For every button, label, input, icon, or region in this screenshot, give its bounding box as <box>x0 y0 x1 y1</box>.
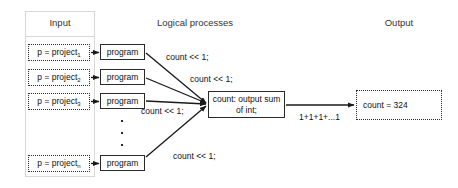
input-project-box-3[interactable]: p = project3 <box>28 93 90 110</box>
input-project-label-1: p = project <box>37 47 77 57</box>
aggregator-box[interactable]: count: output sum of int; <box>208 91 285 118</box>
input-project-box-n[interactable]: p = projectn <box>28 155 90 172</box>
aggregator-line-1: count: output sum <box>213 94 281 104</box>
column-header-logical-processes: Logical processes <box>140 17 250 29</box>
input-project-subscript-2: 2 <box>77 77 80 83</box>
input-project-label-3: p = project <box>37 96 77 106</box>
column-header-input: Input <box>25 17 95 29</box>
input-project-label-n: p = project <box>37 158 77 168</box>
program-box-3[interactable]: program <box>100 93 145 109</box>
output-count-box[interactable]: count = 324 <box>356 90 442 120</box>
input-project-box-1[interactable]: p = project1 <box>28 44 90 61</box>
program-box-1[interactable]: program <box>100 44 145 60</box>
input-project-label-2: p = project <box>37 72 77 82</box>
edge-label-output: 1+1+1+...1 <box>299 112 340 122</box>
vertical-ellipsis-programs <box>121 120 123 156</box>
input-header-divider <box>25 36 95 37</box>
diagram-canvas: Input Logical processes Output p = proje… <box>0 0 458 188</box>
edge-label-process-1: count << 1; <box>166 52 209 62</box>
edge-label-process-2: count << 1; <box>190 74 233 84</box>
edge-label-process-n: count << 1; <box>173 151 216 161</box>
program-box-n[interactable]: program <box>100 155 145 171</box>
aggregator-line-2: of int; <box>236 105 257 115</box>
input-project-subscript-1: 1 <box>77 52 80 58</box>
arrow-program-3-to-aggregator <box>146 101 206 104</box>
program-box-2[interactable]: program <box>100 69 145 85</box>
column-header-output: Output <box>344 17 454 29</box>
input-project-subscript-n: n <box>77 163 80 169</box>
input-project-subscript-3: 3 <box>77 101 80 107</box>
edge-label-process-3: count << 1; <box>141 106 184 116</box>
input-project-box-2[interactable]: p = project2 <box>28 69 90 86</box>
